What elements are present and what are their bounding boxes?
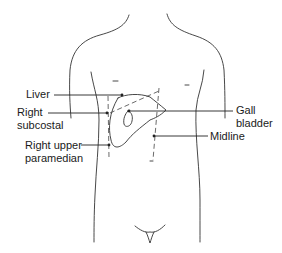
right-paramedian-point bbox=[108, 144, 111, 147]
right-paramedian-incision bbox=[108, 96, 109, 158]
label-gall-bladder-1: Gall bbox=[236, 104, 256, 116]
liver-point bbox=[121, 94, 124, 97]
label-right-upper-paramedian-1: Right upper bbox=[25, 139, 82, 151]
left-torso-outline bbox=[91, 72, 99, 242]
left-shoulder-outline bbox=[70, 15, 129, 118]
gall-bladder-point bbox=[128, 110, 131, 113]
label-gall-bladder-2: bladder bbox=[236, 117, 273, 129]
groin-outline bbox=[135, 225, 165, 232]
midline-incision bbox=[153, 88, 159, 160]
right-shoulder-outline bbox=[167, 14, 225, 118]
right-subcostal-point bbox=[106, 112, 109, 115]
label-right-upper-paramedian-2: paramedian bbox=[25, 152, 83, 164]
label-midline: Midline bbox=[210, 130, 245, 142]
midline-point bbox=[153, 135, 156, 138]
gall-bladder-outline bbox=[124, 111, 133, 126]
label-right-subcostal-1: Right bbox=[17, 106, 43, 118]
label-right-subcostal-2: subcostal bbox=[17, 119, 63, 131]
label-liver: Liver bbox=[26, 88, 50, 100]
liver-outline bbox=[109, 94, 166, 147]
groin-detail bbox=[146, 232, 154, 243]
right-torso-outline bbox=[196, 70, 204, 242]
